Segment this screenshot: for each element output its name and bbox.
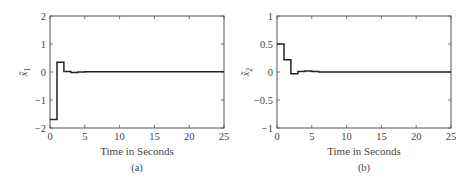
x-tick-label: 10 [341, 131, 352, 142]
x-tick-label: 5 [309, 131, 314, 142]
plot-area: 0510152025−1−0.500.51 [254, 11, 456, 143]
x-tick-label: 15 [376, 131, 387, 142]
y-axis-label: x̃2 [240, 68, 254, 78]
y-tick-label: 0.5 [260, 39, 273, 50]
chart-panel-b: 0510152025−1−0.500.51Time in Seconds(b)x… [227, 0, 465, 185]
y-tick-label: 0 [268, 67, 273, 78]
chart-b-svg: 0510152025−1−0.500.51Time in Seconds(b)x… [227, 0, 476, 185]
y-tick-label: −1 [35, 95, 46, 106]
x-tick-label: 15 [149, 131, 160, 142]
plot-area: 0510152025−2−1012 [35, 11, 229, 143]
chart-panel-a: 0510152025−2−1012Time in Seconds(a)x̃1 [0, 0, 238, 185]
y-tick-label: 1 [41, 39, 46, 50]
panel-caption: (a) [131, 162, 143, 174]
series-line [277, 44, 451, 74]
x-axis-label: Time in Seconds [327, 145, 401, 157]
y-tick-label: −0.5 [254, 95, 273, 106]
x-axis-label: Time in Seconds [100, 145, 174, 157]
y-tick-label: 1 [268, 11, 273, 22]
x-tick-label: 20 [411, 131, 422, 142]
y-tick-label: −2 [35, 123, 46, 134]
x-tick-label: 5 [82, 131, 87, 142]
chart-a-svg: 0510152025−2−1012Time in Seconds(a)x̃1 [0, 0, 238, 185]
x-tick-label: 10 [114, 131, 125, 142]
x-tick-label: 20 [184, 131, 195, 142]
y-axis-label: x̃1 [18, 68, 32, 78]
x-tick-label: 0 [274, 131, 279, 142]
y-tick-label: −1 [262, 123, 273, 134]
x-tick-label: 0 [47, 131, 52, 142]
series-line [50, 62, 224, 119]
y-tick-label: 2 [41, 11, 46, 22]
y-tick-label: 0 [41, 67, 46, 78]
panel-caption: (b) [358, 162, 371, 174]
x-tick-label: 25 [446, 131, 457, 142]
